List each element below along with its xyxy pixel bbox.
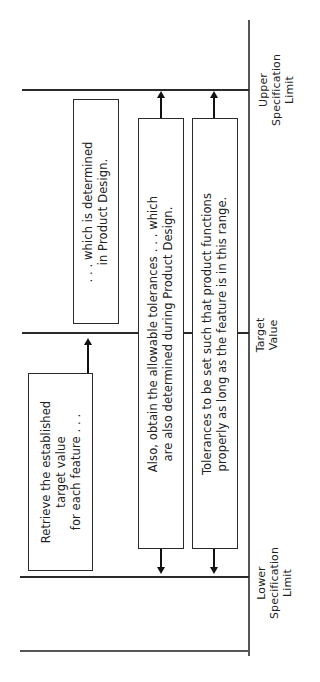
determined-text: . . . which is determined in Product Des… xyxy=(81,141,111,282)
retrieve-line-3: for each feature . . . xyxy=(68,401,83,544)
tolerances-line-1: Tolerances to be set such that product f… xyxy=(200,192,215,474)
allowable-arrow-up-icon xyxy=(157,91,165,98)
lower-label-line-3: Limit xyxy=(281,547,294,619)
target-label-line-1: Target xyxy=(254,318,267,353)
determined-line-1: . . . which is determined xyxy=(81,141,96,282)
upper-label-line-2: Specification xyxy=(270,54,283,126)
retrieve-box: Retrieve the established target value fo… xyxy=(28,373,93,571)
retrieve-text: Retrieve the established target value fo… xyxy=(38,401,83,544)
retrieve-arrow-stem xyxy=(87,345,89,373)
allowable-line-1: Also, obtain the allowable tolerances . … xyxy=(146,195,161,471)
tolerances-line-2: properly as long as the feature is in th… xyxy=(215,192,230,474)
lower-spec-limit-label: Lower Specification Limit xyxy=(250,528,298,638)
tolerances-arrow-up-icon xyxy=(210,91,218,98)
tolerances-text: Tolerances to be set such that product f… xyxy=(200,192,230,474)
retrieve-line-1: Retrieve the established xyxy=(38,401,53,544)
allowable-arrow-down-stem xyxy=(160,549,162,569)
lower-label-line-2: Specification xyxy=(268,547,281,619)
upper-label-line-1: Upper xyxy=(257,54,270,126)
tolerances-arrow-up-stem xyxy=(213,97,215,118)
lower-spec-limit-line xyxy=(20,576,249,578)
target-label-line-2: Value xyxy=(267,318,280,353)
determined-line-2: in Product Design. xyxy=(96,141,111,282)
upper-spec-limit-label: Upper Specification Limit xyxy=(252,30,300,150)
tolerance-range-box: Tolerances to be set such that product f… xyxy=(192,118,238,549)
lower-label-line-1: Lower xyxy=(255,547,268,619)
tolerances-arrow-down-stem xyxy=(213,549,215,569)
target-value-label: Target Value xyxy=(250,300,284,370)
allowable-arrow-up-stem xyxy=(160,97,162,118)
allowable-line-2: are also determined during Product Desig… xyxy=(161,195,176,471)
bottom-boundary-line xyxy=(20,650,248,652)
retrieve-line-2: target value xyxy=(53,401,68,544)
allowable-text: Also, obtain the allowable tolerances . … xyxy=(146,195,176,471)
upper-label-line-3: Limit xyxy=(283,54,296,126)
allowable-tolerances-box: Also, obtain the allowable tolerances . … xyxy=(138,118,184,549)
tolerances-arrow-down-icon xyxy=(210,567,218,574)
retrieve-arrow-up-icon xyxy=(84,338,92,345)
allowable-arrow-down-icon xyxy=(157,567,165,574)
determined-box: . . . which is determined in Product Des… xyxy=(73,99,119,324)
